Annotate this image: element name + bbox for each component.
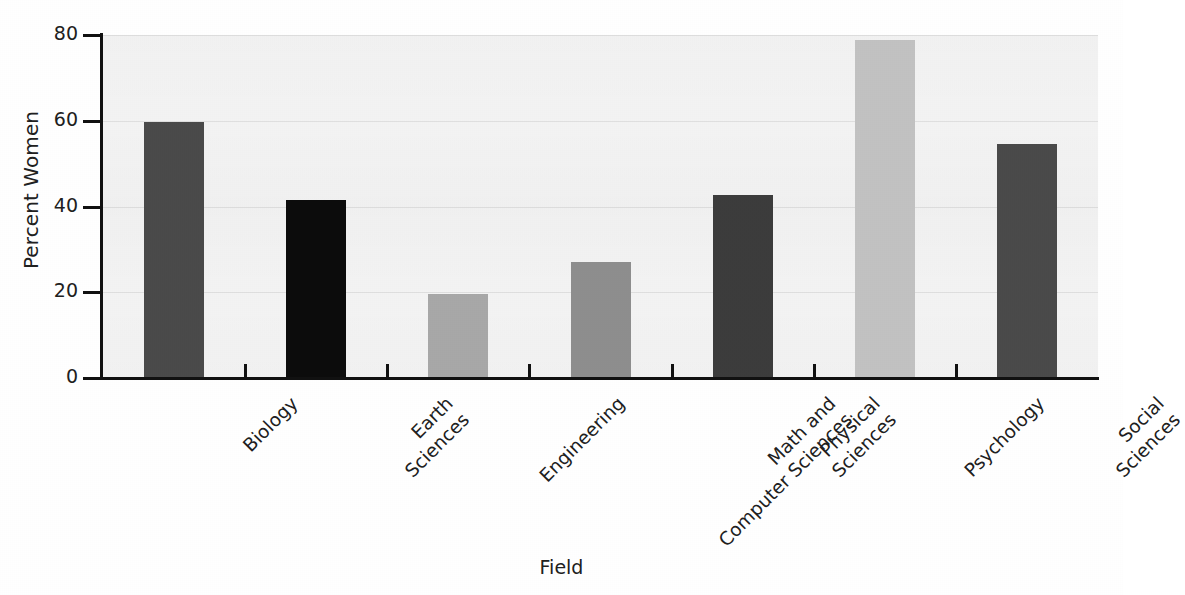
y-axis-tick-label: 80 xyxy=(20,22,78,44)
x-axis-minor-tick xyxy=(813,364,816,378)
x-axis-minor-tick xyxy=(671,364,674,378)
gridline xyxy=(103,121,1098,122)
bar xyxy=(286,200,346,378)
x-axis-spine xyxy=(100,377,1099,380)
gridline xyxy=(103,35,1098,36)
bar xyxy=(997,144,1057,378)
y-axis-tick-label: 0 xyxy=(20,365,78,387)
x-axis-minor-tick xyxy=(955,364,958,378)
x-axis-label: Engineering xyxy=(535,392,630,487)
x-axis-label: EarthSciences xyxy=(384,392,474,482)
y-axis-tick xyxy=(83,120,103,123)
x-axis-label: Biology xyxy=(238,392,303,457)
y-axis-tick-label: 20 xyxy=(20,279,78,301)
x-axis-title: Field xyxy=(0,556,1123,578)
bar xyxy=(144,122,204,378)
bar xyxy=(855,40,915,378)
y-axis-tick xyxy=(83,206,103,209)
plot-area xyxy=(103,35,1098,378)
x-axis-label-line: Math and xyxy=(697,392,840,535)
bar xyxy=(713,195,773,378)
x-axis-label: SocialSciences xyxy=(1095,392,1185,482)
x-axis-minor-tick xyxy=(386,364,389,378)
bar xyxy=(428,294,488,378)
y-axis-tick xyxy=(83,34,103,37)
x-axis-minor-tick xyxy=(528,364,531,378)
x-axis-label-line: Biology xyxy=(238,392,303,457)
bar xyxy=(571,262,631,378)
x-axis-label-line: Psychology xyxy=(959,392,1049,482)
y-axis-tick-label: 60 xyxy=(20,108,78,130)
y-axis-title: Percent Women xyxy=(16,0,46,380)
x-axis-minor-tick xyxy=(244,364,247,378)
y-axis-tick-label: 40 xyxy=(20,194,78,216)
x-axis-label-line: Engineering xyxy=(535,392,630,487)
y-axis-tick xyxy=(83,291,103,294)
gridline xyxy=(103,207,1098,208)
y-axis-tick xyxy=(83,377,103,380)
x-axis-label: Psychology xyxy=(959,392,1049,482)
